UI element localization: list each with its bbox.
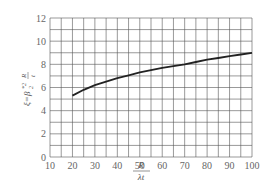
- y-axis-ticks: 024681012: [36, 13, 46, 163]
- y-axis-label: ξ=β *2 2 R t: [20, 72, 37, 106]
- x-tick-label: 60: [157, 160, 167, 171]
- y-tick-label: 6: [41, 82, 46, 93]
- y-label-main: ξ=β: [22, 91, 32, 106]
- x-tick-label: 100: [245, 160, 260, 171]
- y-label-sub: 2: [28, 86, 34, 89]
- x-axis-ticks: 102030405060708090100: [45, 160, 260, 171]
- y-tick-label: 10: [36, 36, 46, 47]
- y-tick-label: 4: [41, 105, 46, 116]
- y-label-frac-num: R: [20, 73, 28, 79]
- x-tick-label: 10: [45, 160, 55, 171]
- x-tick-label: 20: [67, 160, 77, 171]
- x-tick-label: 70: [180, 160, 190, 171]
- y-tick-label: 8: [41, 59, 46, 70]
- y-tick-label: 0: [41, 152, 46, 163]
- x-label-numerator: R: [137, 160, 144, 170]
- grid-lines: [50, 18, 252, 157]
- x-label-denominator: λt: [137, 172, 145, 182]
- y-tick-label: 2: [41, 128, 46, 139]
- y-tick-label: 12: [36, 13, 46, 24]
- chart: 102030405060708090100 024681012 R λt ξ=β…: [0, 0, 273, 195]
- y-label-sup: *2: [21, 83, 27, 89]
- x-tick-label: 40: [112, 160, 122, 171]
- x-tick-label: 90: [225, 160, 235, 171]
- x-tick-label: 30: [90, 160, 100, 171]
- y-label-frac-den: t: [29, 74, 37, 77]
- x-tick-label: 80: [202, 160, 212, 171]
